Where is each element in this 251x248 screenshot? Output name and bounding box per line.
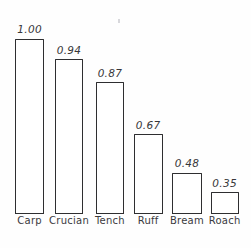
category-axis: Carp Crucian Tench Ruff Bream Roach	[0, 216, 251, 238]
bar-rect-roach	[211, 192, 239, 214]
bar-value-ruff: 0.67	[136, 120, 161, 131]
bar-group-ruff: 0.67	[134, 83, 163, 214]
bar-value-bream: 0.48	[175, 158, 200, 169]
bar-value-roach: 0.35	[212, 178, 237, 189]
bar-rect-tench	[96, 82, 124, 214]
category-label-ruff: Ruff	[138, 216, 159, 226]
bar-group-crucian: 0.94	[55, 32, 83, 214]
bar-rect-ruff	[134, 134, 163, 214]
bar-rect-carp	[15, 39, 44, 214]
bar-rect-bream	[172, 173, 201, 214]
bar-group-carp: 1.00	[15, 20, 44, 214]
bar-group-tench: 0.87	[96, 46, 124, 214]
bar-group-bream: 0.48	[172, 120, 201, 214]
bar-value-tench: 0.87	[98, 68, 123, 79]
category-label-crucian: Crucian	[49, 216, 89, 226]
plot-area: 1.00 0.94 0.87 0.67 0.48 0.35	[0, 0, 251, 214]
category-label-tench: Tench	[95, 216, 125, 226]
bar-value-crucian: 0.94	[57, 45, 82, 56]
bar-value-carp: 1.00	[17, 24, 42, 35]
category-label-carp: Carp	[17, 216, 42, 226]
category-label-roach: Roach	[209, 216, 241, 226]
bar-chart: 1.00 0.94 0.87 0.67 0.48 0.35 Carp Cruci…	[0, 0, 251, 248]
bar-group-roach: 0.35	[211, 146, 239, 214]
category-label-bream: Bream	[170, 216, 204, 226]
bar-rect-crucian	[55, 59, 83, 214]
